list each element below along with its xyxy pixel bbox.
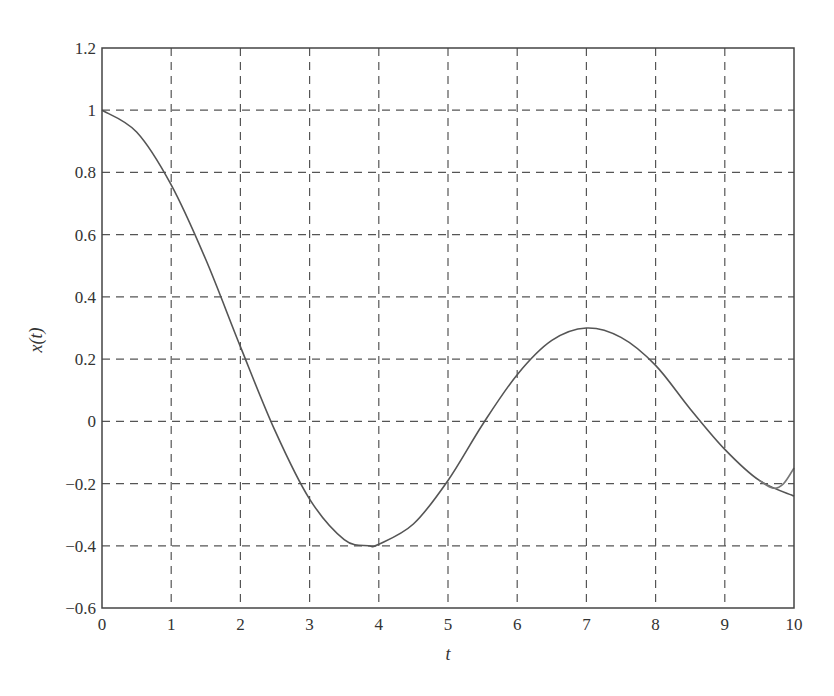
grid-lines (102, 48, 794, 608)
y-tick-label: −0.2 (65, 475, 96, 494)
series-line (759, 468, 794, 488)
chart-canvas: 1.210.80.60.40.20−0.2−0.4−0.6 0123456789… (0, 0, 834, 696)
x-tick-label: 0 (98, 615, 107, 634)
y-tick-label: 0 (88, 412, 97, 431)
y-tick-label: 0.4 (75, 288, 97, 307)
x-tick-label: 8 (651, 615, 660, 634)
x-tick-label: 4 (375, 615, 384, 634)
x-tick-label: 5 (444, 615, 453, 634)
x-tick-label: 10 (786, 615, 803, 634)
x-axis-label: t (445, 644, 451, 664)
x-tick-label: 6 (513, 615, 522, 634)
y-tick-label: 1.2 (75, 39, 96, 58)
y-axis-ticks: 1.210.80.60.40.20−0.2−0.4−0.6 (65, 39, 96, 618)
x-tick-label: 3 (305, 615, 314, 634)
x-tick-label: 7 (582, 615, 591, 634)
x-tick-label: 9 (721, 615, 730, 634)
y-axis-label: x(t) (26, 328, 47, 354)
y-tick-label: 0.2 (75, 350, 96, 369)
y-tick-label: 1 (88, 101, 97, 120)
x-tick-label: 2 (236, 615, 245, 634)
y-tick-label: 0.6 (75, 226, 96, 245)
y-tick-label: −0.4 (65, 537, 96, 556)
y-tick-label: −0.6 (65, 599, 96, 618)
y-tick-label: 0.8 (75, 163, 96, 182)
x-axis-ticks: 012345678910 (98, 615, 803, 634)
x-tick-label: 1 (167, 615, 176, 634)
